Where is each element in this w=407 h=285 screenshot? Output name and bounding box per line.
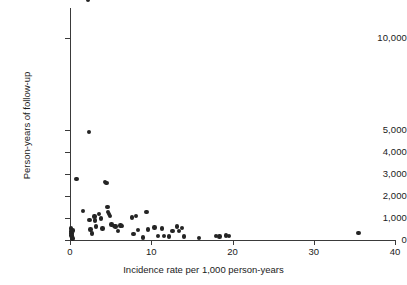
data-point [92,214,96,218]
data-point [170,229,174,233]
x-axis-tick-label: 30 [294,247,334,257]
data-point [99,216,103,220]
y-axis-line [70,8,71,240]
data-point [81,209,85,213]
data-point [214,234,218,238]
data-point [227,234,231,238]
y-axis-tick-label: 10,000 [345,33,407,43]
scatter-chart-figure: 01,0002,0003,0004,0005,00010,000 0102030… [0,0,407,285]
data-point [108,214,112,218]
data-point [100,226,104,230]
data-point [86,0,90,2]
data-point [90,231,94,235]
data-point [87,218,91,222]
data-point [144,210,148,214]
data-point [103,180,107,184]
y-axis-tick-label: 4,000 [345,147,407,157]
y-axis-tick [65,196,70,197]
x-axis-tick-label: 0 [50,247,90,257]
y-axis-tick-label: 5,000 [345,125,407,135]
data-point [160,226,164,230]
data-point [74,177,78,181]
data-point [217,234,221,238]
data-point [146,227,150,231]
data-point [175,224,179,228]
data-point [118,223,122,227]
data-point [162,234,166,238]
y-axis-title: Person-years of follow-up [21,26,32,226]
data-point [136,228,140,232]
x-axis-tick-label: 20 [213,247,253,257]
x-axis-tick [151,240,152,245]
data-point [97,212,101,216]
data-point [104,181,108,185]
y-axis-tick-label: 0 [345,235,407,245]
x-axis-tick [233,240,234,245]
data-point [177,229,181,233]
data-point [113,224,117,228]
data-point [88,227,92,231]
data-point [93,218,97,222]
data-point [109,222,113,226]
x-axis-tick-label: 10 [131,247,171,257]
x-axis-tick [314,240,315,245]
data-point [180,226,184,230]
data-point [156,234,160,238]
y-axis-tick [65,218,70,219]
y-axis-tick [65,130,70,131]
data-point [105,205,109,209]
data-point [152,225,156,229]
data-point [107,212,111,216]
y-axis-tick [65,38,70,39]
data-point [131,232,135,236]
y-axis-tick-label: 2,000 [345,191,407,201]
data-point [134,214,138,218]
y-axis-tick-label: 1,000 [345,213,407,223]
data-point [224,233,228,237]
data-point [87,130,91,134]
y-axis-tick [65,152,70,153]
data-point [106,210,110,214]
data-point [130,215,134,219]
data-point [116,229,120,233]
y-axis-tick-label: 3,000 [345,169,407,179]
data-point [167,234,171,238]
y-axis-tick [65,174,70,175]
x-axis-tick [395,240,396,245]
x-axis-tick [70,240,71,245]
data-point [71,228,75,232]
data-point [94,224,98,228]
data-point [112,224,116,228]
data-point [141,235,145,239]
x-axis-tick-label: 40 [375,247,407,257]
data-point [120,224,124,228]
data-point [182,234,186,238]
x-axis-title: Incidence rate per 1,000 person-years [0,264,407,275]
